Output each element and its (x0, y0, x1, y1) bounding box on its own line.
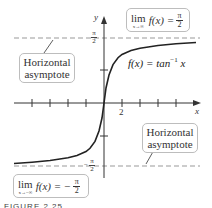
pi-over-2: π 2 (176, 12, 183, 29)
left-callout-leader (44, 40, 53, 53)
pi-numerator: π (90, 158, 94, 165)
frac-num: π (75, 178, 79, 186)
upper-asymptote-label: π 2 (91, 30, 97, 45)
function-label: f(x) = tan−1 x (128, 56, 185, 69)
two-denominator: 2 (92, 38, 96, 45)
lim-subscript: x→−∞ (18, 190, 32, 195)
y-axis-arrow-icon (101, 16, 107, 24)
lim-operator: lim x→−∞ (18, 178, 33, 195)
lim-word: lim (18, 178, 33, 190)
lim-word: lim (131, 12, 146, 24)
lim-subscript: x→∞ (133, 24, 144, 29)
limit-positive-infinity-box: lim x→∞ f(x) = π 2 (126, 8, 190, 32)
x-axis-label: x (195, 106, 199, 116)
figure-caption: FIGURE 2.25 (4, 202, 63, 208)
pi-over-2: π 2 (73, 178, 80, 195)
lim-operator: lim x→∞ (131, 12, 146, 29)
lim-expression: f(x) = − (36, 180, 72, 192)
left-asymptote-callout: Horizontal asymptote (19, 53, 75, 83)
pi-numerator: π (92, 30, 96, 37)
minus-sign: − (84, 162, 88, 169)
frac-den: 2 (178, 21, 182, 29)
callout-line1: Horizontal (143, 126, 197, 138)
two-denominator: 2 (90, 166, 94, 173)
frac-num: π (178, 12, 182, 20)
function-label-text: f(x) = tan (128, 57, 170, 69)
function-label-var: x (180, 57, 185, 69)
function-label-exponent: −1 (170, 56, 177, 64)
x-tick-label-2: 2 (119, 107, 124, 117)
right-asymptote-callout: Horizontal asymptote (142, 123, 198, 153)
lower-asymptote-label: − π 2 (84, 158, 95, 173)
callout-line1: Horizontal (20, 56, 74, 68)
lim-expression: f(x) = (149, 14, 174, 26)
frac-den: 2 (75, 187, 79, 195)
limit-negative-infinity-box: lim x→−∞ f(x) = − π 2 (13, 174, 89, 198)
y-axis-label: y (94, 12, 98, 22)
callout-line2: asymptote (143, 138, 197, 150)
callout-line2: asymptote (20, 68, 74, 80)
